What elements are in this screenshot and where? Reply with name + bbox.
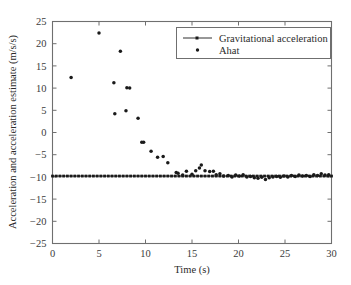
ahat-point — [279, 176, 283, 180]
y-tick-label: −20 — [30, 216, 46, 227]
gravitational-acceleration-marker — [200, 175, 203, 178]
gravitational-acceleration-marker — [114, 175, 117, 178]
gravitational-acceleration-marker — [85, 175, 88, 178]
ahat-point — [156, 156, 160, 160]
ahat-point — [316, 174, 320, 178]
ahat-point — [203, 169, 207, 173]
ahat-point — [253, 176, 257, 180]
gravitational-acceleration-marker — [107, 175, 110, 178]
ahat-point — [297, 173, 301, 177]
y-tick-label: 5 — [41, 105, 46, 116]
ahat-point — [97, 31, 101, 35]
ahat-point — [245, 175, 249, 179]
gravitational-acceleration-marker — [59, 175, 62, 178]
ahat-point — [136, 117, 140, 121]
ahat-point — [185, 169, 189, 173]
gravitational-acceleration-marker — [170, 175, 173, 178]
x-tick-label: 15 — [187, 248, 198, 259]
x-axis-title: Time (s) — [174, 264, 210, 276]
gravitational-acceleration-marker — [204, 175, 207, 178]
x-tick-label: 30 — [326, 248, 337, 259]
ahat-point — [275, 175, 279, 179]
ahat-point — [264, 178, 268, 182]
ahat-point — [230, 175, 234, 179]
gravitational-acceleration-marker — [73, 175, 76, 178]
gravitational-acceleration-marker — [185, 175, 188, 178]
ahat-point — [286, 175, 290, 179]
legend-label-gravitational-acceleration: Gravitational acceleration — [219, 33, 328, 44]
y-axis-title: Acceleration and acceleration estimate (… — [7, 34, 19, 229]
gravitational-acceleration-marker — [152, 175, 155, 178]
ahat-point — [282, 174, 286, 178]
ahat-point — [308, 175, 312, 179]
ahat-point — [327, 173, 331, 177]
legend: Gravitational acceleration Ahat — [177, 28, 331, 59]
x-axis-tick-labels: 051015202530 — [50, 248, 337, 259]
ahat-point — [293, 175, 297, 179]
ahat-point — [194, 169, 198, 173]
gravitational-acceleration-marker — [126, 175, 129, 178]
ahat-point — [176, 172, 180, 176]
ahat-point — [249, 175, 253, 179]
ahat-point — [113, 112, 117, 116]
gravitational-acceleration-marker — [137, 175, 140, 178]
gravitational-acceleration-marker — [140, 175, 143, 178]
ahat-point — [124, 109, 128, 113]
gravitational-acceleration-marker — [133, 175, 136, 178]
x-tick-label: 10 — [140, 248, 151, 259]
gravitational-acceleration-marker — [51, 175, 54, 178]
x-tick-label: 5 — [96, 248, 101, 259]
ahat-point — [128, 86, 132, 90]
gravitational-acceleration-marker — [62, 175, 65, 178]
gravitational-acceleration-marker — [55, 175, 58, 178]
ahat-point — [161, 155, 165, 159]
gravitational-acceleration-marker — [163, 175, 166, 178]
ahat-point — [305, 174, 309, 178]
gravitational-acceleration-marker — [166, 175, 169, 178]
gravitational-acceleration-marker — [77, 175, 80, 178]
gravitational-acceleration-marker — [99, 175, 102, 178]
gravitational-acceleration-marker — [207, 175, 210, 178]
chart-canvas: 051015202530 −25−20−15−10−50510152025 Ti… — [0, 0, 351, 285]
gravitational-acceleration-marker — [155, 175, 158, 178]
ahat-point — [218, 172, 222, 176]
x-tick-label: 25 — [280, 248, 291, 259]
gravitational-acceleration-marker — [148, 175, 151, 178]
gravitational-acceleration-marker — [118, 175, 121, 178]
y-tick-label: −5 — [35, 149, 46, 160]
legend-dot-marker — [196, 48, 199, 51]
ahat-point — [119, 50, 123, 54]
ahat-point — [312, 173, 316, 177]
gravitational-acceleration-marker — [122, 175, 125, 178]
ahat-point — [323, 173, 327, 177]
legend-line-marker — [196, 37, 199, 40]
ahat-point — [166, 161, 170, 165]
legend-label-ahat: Ahat — [219, 45, 239, 56]
gravitational-acceleration-marker — [81, 175, 84, 178]
gravitational-acceleration-marker — [174, 175, 177, 178]
y-tick-label: 15 — [36, 61, 47, 72]
y-tick-label: −15 — [30, 194, 46, 205]
y-tick-label: −25 — [30, 238, 46, 249]
ahat-point — [260, 176, 264, 180]
y-axis-tick-labels: −25−20−15−10−50510152025 — [30, 16, 46, 249]
ahat-point — [112, 81, 116, 85]
y-tick-label: 0 — [41, 127, 46, 138]
ahat-point — [320, 172, 324, 176]
gravitational-acceleration-marker — [111, 175, 114, 178]
ahat-point — [214, 173, 218, 177]
ahat-point — [198, 166, 202, 170]
gravitational-acceleration-marker — [129, 175, 132, 178]
x-tick-label: 20 — [233, 248, 244, 259]
gravitational-acceleration-marker — [196, 175, 199, 178]
ahat-point — [212, 169, 216, 173]
y-tick-label: 20 — [36, 38, 47, 49]
x-tick-label: 0 — [50, 248, 55, 259]
y-tick-label: 10 — [36, 83, 47, 94]
ahat-point — [190, 172, 194, 176]
chart-figure: 051015202530 −25−20−15−10−50510152025 Ti… — [0, 0, 351, 285]
ahat-point — [290, 174, 294, 178]
gravitational-acceleration-marker — [144, 175, 147, 178]
gravitational-acceleration-marker — [66, 175, 69, 178]
ahat-point — [227, 174, 231, 178]
